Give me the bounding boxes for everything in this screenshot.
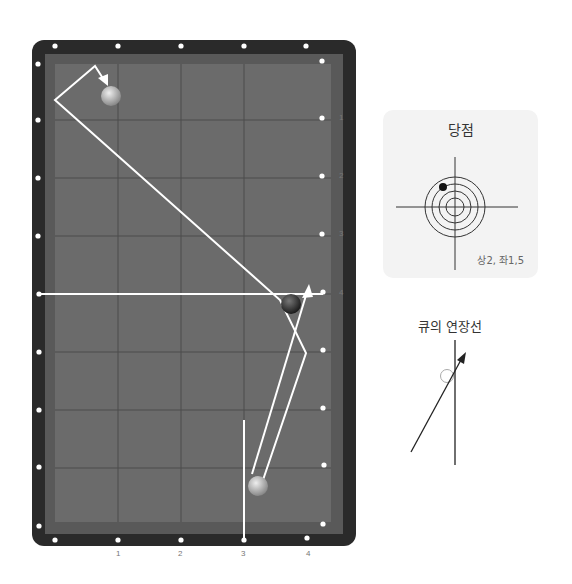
rail-label: 1 bbox=[116, 549, 120, 558]
rail-label: 3 bbox=[241, 549, 245, 558]
aim-point-card: 당점 상2, 좌1,5 bbox=[383, 110, 538, 278]
rail-label: 2 bbox=[339, 171, 343, 180]
rail-label: 4 bbox=[306, 549, 310, 558]
rail-label: 4 bbox=[339, 288, 343, 297]
aim-point-value: 상2, 좌1,5 bbox=[477, 252, 524, 267]
object-ball bbox=[101, 86, 121, 106]
rail-label: 2 bbox=[178, 549, 182, 558]
red-ball bbox=[281, 294, 301, 314]
cue-ball bbox=[248, 476, 268, 496]
rail-label: 3 bbox=[339, 229, 343, 238]
cue-extension-title: 큐의 연장선 bbox=[395, 316, 505, 335]
billiard-table bbox=[0, 0, 572, 584]
cue-extension-diagram bbox=[411, 340, 466, 465]
rail-label: 1 bbox=[339, 113, 343, 122]
